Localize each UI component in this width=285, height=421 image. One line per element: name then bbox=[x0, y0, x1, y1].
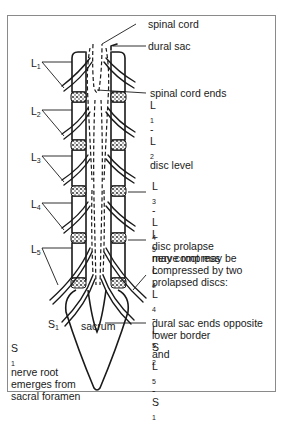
annotation-cord-ends: spinal cord ends L1-L2 disc level bbox=[150, 87, 226, 171]
label-dural-sac: dural sac bbox=[148, 40, 191, 52]
label-L2: L2 bbox=[31, 105, 41, 117]
label-L1: L1 bbox=[31, 57, 41, 69]
label-L3: L3 bbox=[31, 151, 41, 163]
cauda-equina bbox=[87, 44, 108, 285]
annotation-s1-root: S1 nerve root emerges from sacral forame… bbox=[11, 342, 80, 402]
label-L5: L5 bbox=[31, 243, 41, 255]
label-sacrum: sacrum bbox=[81, 320, 115, 332]
spinal-cord-leader bbox=[102, 24, 136, 44]
left-vertebral-column bbox=[72, 52, 85, 278]
right-vertebral-column bbox=[112, 52, 125, 278]
label-L4: L4 bbox=[31, 198, 41, 210]
label-spinal-cord: spinal cord bbox=[148, 18, 199, 30]
annotation-dural-sac-ends: dural sac ends opposite lower border S2 bbox=[152, 317, 263, 365]
label-S1: S1 bbox=[48, 318, 59, 330]
intervertebral-discs bbox=[71, 92, 126, 288]
